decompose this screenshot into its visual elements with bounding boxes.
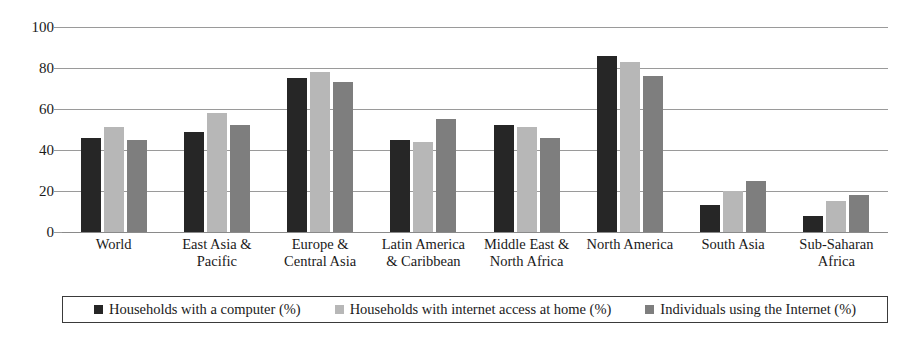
bar[interactable] <box>230 125 250 232</box>
bar[interactable] <box>390 140 410 232</box>
y-tick-mark-0 <box>54 232 62 233</box>
legend-item[interactable]: Individuals using the Internet (%) <box>645 302 856 317</box>
legend-swatch-icon <box>335 305 344 314</box>
y-axis-tick-label: 0 <box>10 225 54 240</box>
bar-group <box>165 27 268 232</box>
y-axis-tick-label: 100 <box>10 20 54 35</box>
x-axis-category-line: Latin America <box>374 236 473 253</box>
bar[interactable] <box>746 181 766 232</box>
x-axis-category-label: Latin America& Caribbean <box>372 236 475 282</box>
y-tick-mark-100 <box>54 27 62 28</box>
bar[interactable] <box>310 72 330 232</box>
bar[interactable] <box>436 119 456 232</box>
x-axis-category-line: & Caribbean <box>374 253 473 270</box>
bar[interactable] <box>620 62 640 232</box>
bar[interactable] <box>826 201 846 232</box>
bar[interactable] <box>723 191 743 232</box>
x-axis-category-line: Sub-Saharan <box>787 236 886 253</box>
bar[interactable] <box>597 56 617 232</box>
y-tick-mark-40 <box>54 150 62 151</box>
bar[interactable] <box>517 127 537 232</box>
plot-area <box>62 27 888 232</box>
x-axis-category-label: Middle East &North Africa <box>475 236 578 282</box>
x-axis-category-label: Europe &Central Asia <box>269 236 372 282</box>
y-tick-mark-20 <box>54 191 62 192</box>
x-axis-category-label: World <box>62 236 165 282</box>
bar[interactable] <box>540 138 560 232</box>
bar[interactable] <box>333 82 353 232</box>
bar[interactable] <box>643 76 663 232</box>
bar-group <box>785 27 888 232</box>
legend-item-label: Individuals using the Internet (%) <box>660 302 856 317</box>
legend-swatch-icon <box>94 305 103 314</box>
bar[interactable] <box>104 127 124 232</box>
x-axis-category-line: North America <box>580 236 679 253</box>
bar-chart: 020406080100 WorldEast Asia &PacificEuro… <box>0 0 911 338</box>
x-axis-category-line: South Asia <box>684 236 783 253</box>
bar[interactable] <box>413 142 433 232</box>
gridline-0 <box>62 232 888 233</box>
x-axis-labels: WorldEast Asia &PacificEurope &Central A… <box>62 236 888 282</box>
bar[interactable] <box>127 140 147 232</box>
x-axis-category-label: North America <box>578 236 681 282</box>
y-axis-tick-label: 40 <box>10 143 54 158</box>
legend-item[interactable]: Households with internet access at home … <box>335 302 612 317</box>
y-tick-mark-80 <box>54 68 62 69</box>
x-axis-category-line: World <box>64 236 163 253</box>
x-axis-category-line: Europe & <box>271 236 370 253</box>
x-axis-category-line: Middle East & <box>477 236 576 253</box>
bar-group <box>62 27 165 232</box>
legend-item[interactable]: Households with a computer (%) <box>94 302 301 317</box>
x-axis-category-line: North Africa <box>477 253 576 270</box>
bar[interactable] <box>287 78 307 232</box>
bar-groups <box>62 27 888 232</box>
bar[interactable] <box>207 113 227 232</box>
legend-item-label: Households with internet access at home … <box>350 302 612 317</box>
x-axis-category-line: Central Asia <box>271 253 370 270</box>
bar[interactable] <box>803 216 823 232</box>
bar-group <box>475 27 578 232</box>
x-axis-category-label: South Asia <box>682 236 785 282</box>
y-axis-tick-label: 60 <box>10 102 54 117</box>
y-tick-mark-60 <box>54 109 62 110</box>
bar[interactable] <box>184 132 204 232</box>
chart-legend: Households with a computer (%)Households… <box>62 296 888 323</box>
bar[interactable] <box>494 125 514 232</box>
bar[interactable] <box>81 138 101 232</box>
y-axis-tick-label: 20 <box>10 184 54 199</box>
x-axis-category-label: Sub-SaharanAfrica <box>785 236 888 282</box>
x-axis-category-label: East Asia &Pacific <box>165 236 268 282</box>
bar[interactable] <box>849 195 869 232</box>
x-axis-category-line: East Asia & <box>167 236 266 253</box>
bar-group <box>578 27 681 232</box>
bar-group <box>269 27 372 232</box>
legend-item-label: Households with a computer (%) <box>109 302 301 317</box>
legend-swatch-icon <box>645 305 654 314</box>
x-axis-category-line: Pacific <box>167 253 266 270</box>
bar-group <box>372 27 475 232</box>
x-axis-category-line: Africa <box>787 253 886 270</box>
bar[interactable] <box>700 205 720 232</box>
y-axis-tick-label: 80 <box>10 61 54 76</box>
bar-group <box>682 27 785 232</box>
